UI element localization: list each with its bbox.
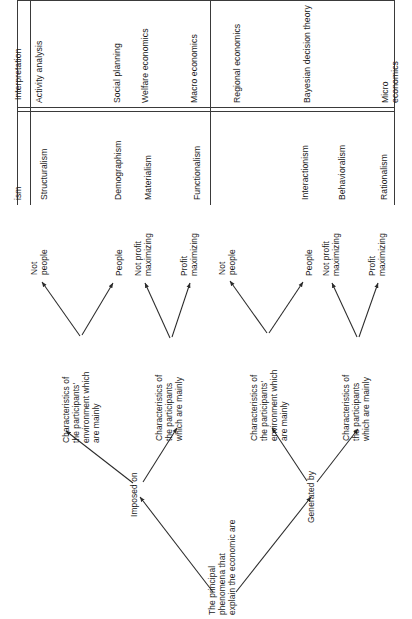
tree-leaf-branch4-profit-maximizing: Profit maximizing: [368, 233, 388, 276]
tree-root-label: The principal phenomena that explain the…: [208, 519, 238, 615]
tree-edges: [0, 0, 412, 619]
edge-branch4-to-leaf-profit-maximizing: [359, 283, 378, 337]
edge-label-generated-by: Generated by: [307, 471, 317, 523]
edge-branch2-to-leaf-profit-maximizing: [172, 283, 190, 337]
tree-node-branch3-label: Characteristics of the participants' env…: [250, 369, 290, 441]
edge-branch3-to-leaf-not-people: [230, 281, 267, 333]
edge-branch3-to-leaf-people: [269, 282, 303, 333]
edge-root-to-imposed-on: [140, 497, 213, 592]
tree-leaf-branch3-people: People: [305, 249, 315, 276]
edge-branch1-to-leaf-not-people: [42, 282, 80, 336]
edge-root-to-generated-by: [236, 497, 311, 592]
edge-branch2-to-leaf-not-profit-maximizing: [145, 283, 170, 338]
edge-branch1-to-leaf-people: [82, 283, 113, 335]
tree-node-branch1-label: Characteristics of the participants' env…: [62, 371, 102, 443]
edge-label-imposed-on: Imposed on: [130, 472, 140, 517]
tree-leaf-branch2-profit-maximizing: Profit maximizing: [180, 233, 200, 276]
tree-leaf-branch4-not-profit-maximizing: Not profit maximizing: [322, 233, 342, 276]
tree-leaf-branch2-not-profit-maximizing: Not profit maximizing: [134, 233, 154, 276]
tree-leaf-branch3-not-people: Not people: [218, 249, 238, 275]
tree-node-branch4-label: Characteristics of the participants whic…: [342, 375, 372, 442]
tree-node-branch2-label: Characteristics of the participants whic…: [155, 375, 185, 442]
edge-branch4-to-leaf-not-profit-maximizing: [332, 283, 357, 337]
diagram-canvas: Interpretation ism Activity analysis Soc…: [0, 0, 412, 619]
tree-leaf-branch1-people: People: [115, 249, 125, 276]
tree-leaf-branch1-not-people: Not people: [30, 249, 50, 275]
